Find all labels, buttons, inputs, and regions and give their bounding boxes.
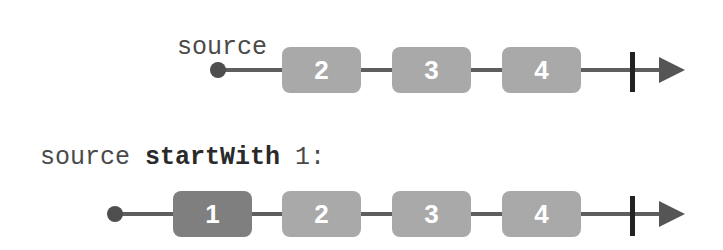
time-arrow-icon [659,201,685,227]
marble-value: 3 [424,55,438,86]
marble-item-prepended: 1 [173,191,252,237]
startwith-timeline: 1 2 3 4 [0,184,723,244]
marble-item: 3 [392,47,471,93]
marble-value: 4 [534,55,548,86]
marble-item: 2 [282,191,361,237]
startwith-label: source startWith 1: [40,145,325,170]
marble-value: 3 [424,199,438,230]
marble-item: 3 [392,191,471,237]
source-timeline: 2 3 4 [0,40,723,100]
marble-item: 4 [502,191,581,237]
time-arrow-icon [659,57,685,83]
completion-marker-icon [630,196,635,236]
marble-value: 1 [205,199,219,230]
marble-value: 2 [314,199,328,230]
marble-item: 2 [282,47,361,93]
subscription-start-dot-icon [107,206,123,222]
startwith-operator: startWith [145,143,280,172]
startwith-label-arg: 1: [280,143,325,172]
marble-value: 2 [314,55,328,86]
marble-value: 4 [534,199,548,230]
completion-marker-icon [630,52,635,92]
startwith-label-source: source [40,143,145,172]
marble-item: 4 [502,47,581,93]
subscription-start-dot-icon [210,62,226,78]
